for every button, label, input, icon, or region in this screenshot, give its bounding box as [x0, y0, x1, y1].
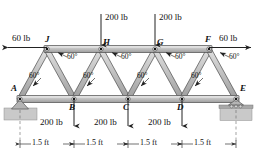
load-label-C-vertical: 200 lb	[94, 118, 117, 127]
angle-label-upper-4: 60°	[229, 53, 240, 61]
dimension-label-A-B: 1.5 ft	[32, 139, 49, 147]
truss-diagram-figure: A B C D E J H G F 60 lb 60 lb 200 lb 200…	[0, 0, 257, 156]
joint-label-A: A	[11, 84, 17, 93]
angle-label-lower-3: 60°	[137, 72, 148, 80]
dimension-label-D-E: 1.5 ft	[194, 139, 211, 147]
angle-label-upper-2: 60°	[121, 53, 132, 61]
joint-label-E: E	[240, 84, 246, 93]
load-label-H-vertical: 200 lb	[105, 13, 128, 22]
joint-label-D: D	[177, 103, 184, 112]
ground-hatch-left	[4, 108, 37, 120]
load-label-G-vertical: 200 lb	[159, 13, 182, 22]
load-arrows	[8, 14, 251, 126]
load-label-B-vertical: 200 lb	[40, 118, 63, 127]
joint-label-J: J	[45, 35, 50, 44]
dimension-label-C-D: 1.5 ft	[140, 139, 157, 147]
joint-label-C: C	[123, 103, 129, 112]
angle-label-lower-4: 60°	[191, 72, 202, 80]
load-label-F-horizontal: 60 lb	[219, 34, 237, 43]
dimension-label-B-C: 1.5 ft	[86, 139, 103, 147]
joint-label-G: G	[157, 38, 164, 47]
joint-label-B: B	[69, 103, 75, 112]
load-label-D-vertical: 200 lb	[148, 118, 171, 127]
joint-label-H: H	[103, 38, 110, 47]
angle-label-upper-1: 60°	[67, 53, 78, 61]
angle-label-upper-3: 60°	[175, 53, 186, 61]
angle-label-lower-2: 60°	[83, 72, 94, 80]
angle-label-lower-1: 60°	[29, 72, 40, 80]
load-label-J-horizontal: 60 lb	[12, 34, 30, 43]
joint-label-F: F	[205, 35, 211, 44]
